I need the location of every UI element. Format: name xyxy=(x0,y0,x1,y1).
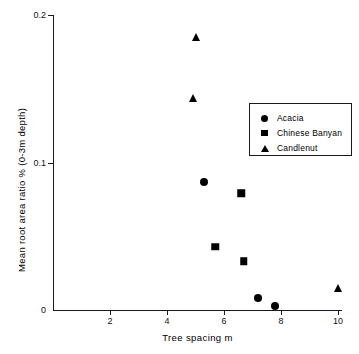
x-axis-tick xyxy=(167,310,168,315)
legend-item-label: Chinese Banyan xyxy=(277,129,342,138)
circle-marker-icon xyxy=(258,115,271,122)
x-axis-title: Tree spacing m xyxy=(53,332,342,343)
legend-item: Acacia xyxy=(258,111,304,125)
x-axis-tick-label: 6 xyxy=(221,317,226,326)
y-axis-tick-label: 0 xyxy=(20,306,46,315)
square-marker-icon xyxy=(258,130,271,137)
y-axis-tick xyxy=(48,15,53,16)
y-axis-line xyxy=(53,15,54,311)
legend-item-label: Candlenut xyxy=(277,144,318,153)
x-axis-tick xyxy=(281,310,282,315)
x-axis-line xyxy=(53,310,342,311)
x-axis-tick-label: 10 xyxy=(333,317,343,326)
y-axis-tick xyxy=(48,163,53,164)
legend-item: Candlenut xyxy=(258,141,318,155)
data-point-square-marker xyxy=(212,243,220,251)
data-point-square-marker xyxy=(240,258,248,266)
x-axis-tick-label: 4 xyxy=(164,317,169,326)
data-point-square-marker xyxy=(237,190,245,198)
x-axis-tick-label: 8 xyxy=(278,317,283,326)
triangle-marker-icon xyxy=(258,145,271,152)
data-point-circle-marker xyxy=(271,302,279,310)
data-point-triangle-marker xyxy=(192,33,200,41)
data-point-triangle-marker xyxy=(189,94,197,102)
x-axis-tick-label: 2 xyxy=(107,317,112,326)
legend-item-label: Acacia xyxy=(277,114,304,123)
x-axis-tick xyxy=(338,310,339,315)
x-axis-tick xyxy=(224,310,225,315)
data-point-circle-marker xyxy=(254,294,262,302)
data-point-triangle-marker xyxy=(334,284,342,292)
data-point-circle-marker xyxy=(200,178,208,186)
scatter-plot-figure: 24681000.10.2 Tree spacing m Mean root a… xyxy=(0,0,359,354)
y-axis-title: Mean root area ratio % (0-3m depth) xyxy=(16,108,27,272)
legend-box: AcaciaChinese BanyanCandlenut xyxy=(249,103,352,156)
x-axis-tick xyxy=(110,310,111,315)
legend-item: Chinese Banyan xyxy=(258,126,342,140)
y-axis-tick-label: 0.2 xyxy=(20,11,46,20)
